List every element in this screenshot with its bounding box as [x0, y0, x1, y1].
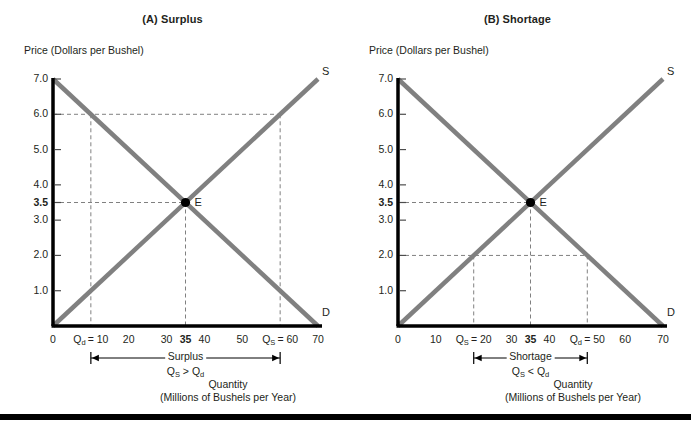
panel-b-plot [345, 0, 690, 410]
x-tick-label: 30 [506, 333, 518, 345]
panel-surplus: (A) Surplus Price (Dollars per Bushel) 7… [0, 0, 345, 410]
y-tick-label: 3.0 [359, 213, 393, 225]
gap-arrowhead [579, 355, 586, 361]
x-tick-label: 20 [123, 333, 135, 345]
y-tick-label: 2.0 [359, 248, 393, 260]
y-tick-label: 3.0 [14, 213, 48, 225]
x-axis-label-line1: Quantity [160, 378, 296, 391]
x-tick-label: 40 [544, 333, 556, 345]
x-tick-label: QS = 60 [262, 333, 298, 345]
equilibrium-point [181, 198, 190, 207]
x-tick-label: 0 [395, 333, 401, 345]
supply-curve-label: S [322, 65, 329, 77]
x-tick-label: 35 [180, 333, 192, 345]
panel-a-x-axis-label: Quantity (Millions of Bushels per Year) [160, 378, 296, 404]
x-tick-label: 10 [430, 333, 442, 345]
equilibrium-point-label: E [195, 196, 202, 208]
demand-curve-label: D [322, 306, 330, 318]
x-tick-label: 0 [50, 333, 56, 345]
x-tick-label: 70 [312, 333, 324, 345]
supply-demand-figure: (A) Surplus Price (Dollars per Bushel) 7… [0, 0, 691, 432]
y-tick-label: 1.0 [14, 284, 48, 296]
y-tick-label: 1.0 [359, 284, 393, 296]
x-tick-label: 30 [161, 333, 173, 345]
y-tick-label: 6.0 [14, 107, 48, 119]
x-tick-label: 70 [657, 333, 669, 345]
y-tick-label: 5.0 [359, 143, 393, 155]
panel-b-x-axis-label: Quantity (Millions of Bushels per Year) [505, 378, 641, 404]
bottom-rule [0, 414, 691, 420]
x-tick-label: Qd = 10 [73, 333, 108, 345]
shortage-gap-label: Shortage [506, 350, 555, 362]
x-tick-label: Qd = 50 [570, 333, 605, 345]
y-tick-label: 4.0 [14, 178, 48, 190]
equilibrium-point [526, 198, 535, 207]
panel-a-plot [0, 0, 345, 410]
y-tick-label: 7.0 [14, 72, 48, 84]
y-tick-label: 4.0 [359, 178, 393, 190]
x-tick-label: 35 [525, 333, 537, 345]
x-tick-label: 50 [236, 333, 248, 345]
gap-arrowhead [272, 355, 279, 361]
gap-arrowhead [92, 355, 99, 361]
y-tick-label: 3.5 [359, 196, 393, 208]
demand-curve-label: D [667, 306, 675, 318]
x-tick-label: 60 [619, 333, 631, 345]
x-axis-label-line2: (Millions of Bushels per Year) [505, 391, 641, 404]
supply-curve-label: S [667, 65, 674, 77]
equilibrium-point-label: E [540, 196, 547, 208]
y-tick-label: 7.0 [359, 72, 393, 84]
y-tick-label: 2.0 [14, 248, 48, 260]
panel-shortage: (B) Shortage Price (Dollars per Bushel) … [345, 0, 690, 410]
x-tick-label: QS = 20 [456, 333, 492, 345]
y-tick-label: 5.0 [14, 143, 48, 155]
gap-arrowhead [475, 355, 482, 361]
y-tick-label: 6.0 [359, 107, 393, 119]
x-axis-label-line2: (Millions of Bushels per Year) [160, 391, 296, 404]
x-tick-label: 40 [199, 333, 211, 345]
x-axis-label-line1: Quantity [505, 378, 641, 391]
surplus-gap-label: Surplus [165, 350, 207, 362]
shortage-gap-relation: QS < Qd [512, 365, 550, 377]
y-tick-label: 3.5 [14, 196, 48, 208]
surplus-gap-relation: QS > Qd [167, 365, 205, 377]
